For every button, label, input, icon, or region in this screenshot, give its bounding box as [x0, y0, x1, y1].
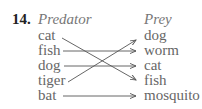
- mapping-arrows: [0, 0, 202, 109]
- arrow-cat-fish: [62, 38, 136, 80]
- arrow-tiger-dog: [68, 40, 136, 82]
